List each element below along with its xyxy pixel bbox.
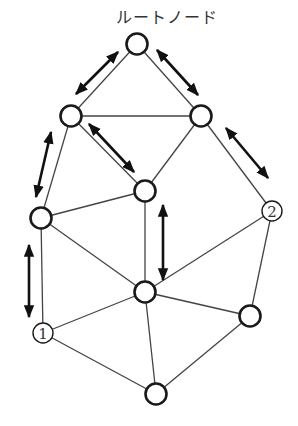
edge-f-g [156,316,250,394]
node-a [61,106,82,127]
node-c [135,181,156,202]
nodes: 21 [31,34,283,405]
double-arrow-icon [89,124,134,172]
edge-b-n2 [201,116,272,211]
double-arrow-icon [226,128,268,178]
edges [41,44,272,394]
edge-n1-e [43,292,145,333]
node-g [146,384,167,405]
tree-network-diagram: 21 [0,0,298,426]
node-b [191,106,212,127]
node-n2: 2 [262,201,282,221]
double-arrow-icon [36,132,51,197]
edge-a-c [71,116,145,191]
edge-c-d [41,191,145,218]
node-number-label: 1 [38,325,48,343]
edge-e-g [145,292,156,394]
node-e [135,282,156,303]
edge-a-d [41,116,71,218]
edge-b-c [145,116,201,191]
edge-n1-g [43,333,156,394]
edge-root-a [71,44,137,116]
edge-d-e [41,218,145,292]
node-f [240,306,261,327]
edge-root-b [137,44,201,116]
node-d [31,208,52,229]
node-root [127,34,148,55]
edge-d-n1 [41,218,43,333]
edge-n2-f [250,211,272,316]
edge-e-f [145,292,250,316]
node-n1: 1 [33,323,53,343]
node-number-label: 2 [267,203,277,221]
